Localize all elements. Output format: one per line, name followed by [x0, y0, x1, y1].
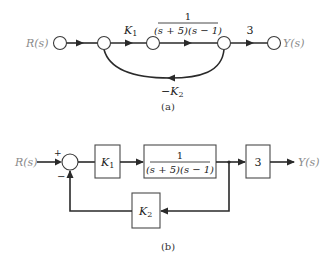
- arrow-icon: [160, 208, 168, 215]
- block-plant-denominator: (s + 5)(s − 1): [146, 164, 214, 175]
- diagram-canvas: R(s) Y(s) K1 1 (s + 5)(s − 1) 3 −K2: [0, 0, 335, 262]
- sfg-k1-label: K1: [123, 24, 137, 38]
- sfg-node-g-out: [218, 37, 231, 50]
- sfg-node-sum: [98, 37, 111, 50]
- sum-plus-sign: +: [54, 148, 62, 158]
- sfg-g-denominator: (s + 5)(s − 1): [154, 25, 222, 36]
- sfg-node-output: [268, 37, 281, 50]
- sfg-node-input: [54, 37, 67, 50]
- sfg-output-label: Y(s): [283, 37, 305, 50]
- caption-a: (a): [161, 101, 175, 112]
- arrow-icon: [67, 170, 74, 178]
- sum-minus-sign: −: [57, 171, 65, 182]
- block-plant-numerator: 1: [177, 150, 183, 161]
- block-diagram: R(s) + − K1 1 (s + 5)(s − 1) 3 Y(s): [14, 145, 320, 252]
- sfg-input-label: R(s): [25, 37, 49, 50]
- sfg-g-numerator: 1: [185, 11, 191, 22]
- sfg-node-k1-out: [147, 37, 160, 50]
- block-gain-3-label: 3: [255, 156, 262, 169]
- arrow-icon: [246, 40, 254, 47]
- sfg-feedback-branch: [104, 50, 224, 79]
- bd-input-label: R(s): [14, 156, 38, 169]
- signal-flow-graph: R(s) Y(s) K1 1 (s + 5)(s − 1) 3 −K2: [25, 11, 305, 112]
- arrow-icon: [76, 40, 84, 47]
- arrow-icon: [287, 159, 295, 166]
- arrow-icon: [136, 159, 144, 166]
- arrow-icon: [184, 40, 192, 47]
- bd-output-label: Y(s): [298, 156, 320, 169]
- caption-b: (b): [161, 241, 175, 252]
- arrow-icon: [125, 40, 133, 47]
- arrow-icon: [55, 159, 62, 166]
- arrow-icon: [167, 75, 175, 82]
- summing-junction: [62, 154, 78, 170]
- sfg-gain-3-label: 3: [247, 24, 254, 37]
- sfg-feedback-label: −K2: [161, 85, 184, 99]
- arrow-icon: [238, 159, 246, 166]
